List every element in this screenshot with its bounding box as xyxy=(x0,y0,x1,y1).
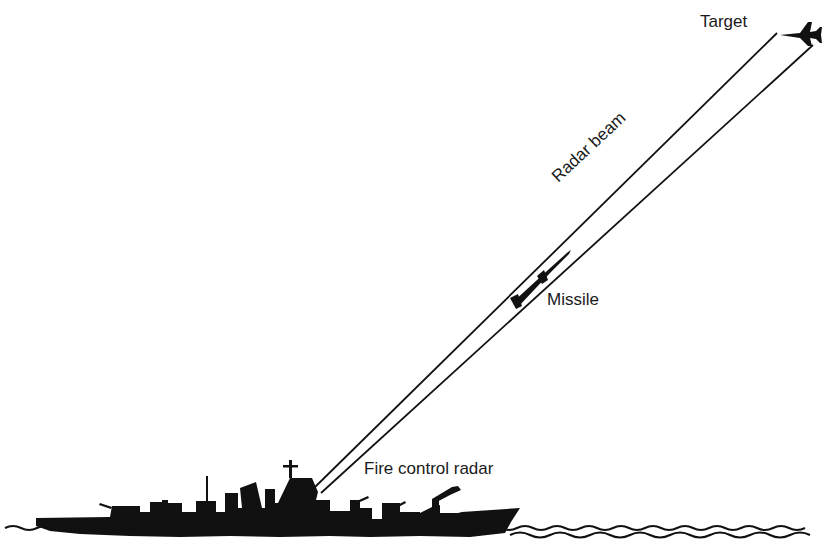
radar-beam-upper-edge xyxy=(313,33,777,489)
target-aircraft-icon xyxy=(780,22,822,46)
fire-control-radar-label: Fire control radar xyxy=(364,459,493,479)
target-label: Target xyxy=(700,12,747,32)
missile-label: Missile xyxy=(547,290,599,310)
radar-beam-lower-edge xyxy=(321,45,813,493)
